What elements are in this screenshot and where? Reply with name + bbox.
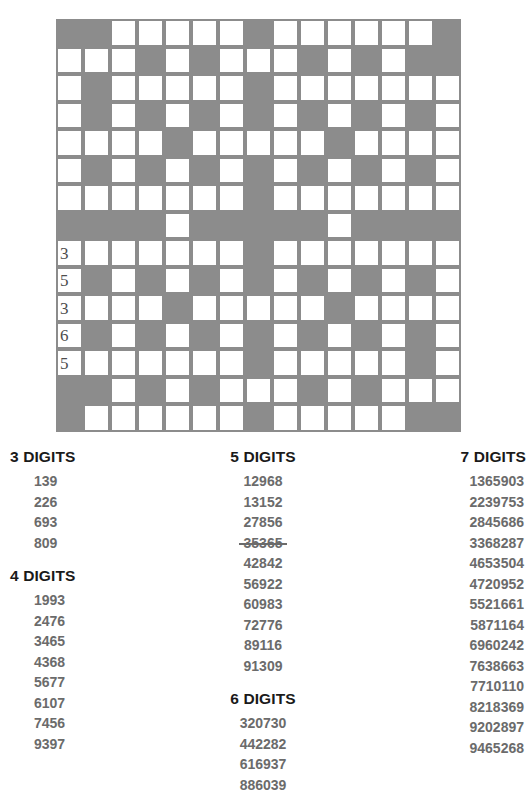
word-entry[interactable]: 72776 (244, 615, 283, 636)
grid-open-cell[interactable] (164, 47, 191, 75)
grid-open-cell[interactable] (353, 129, 380, 157)
grid-open-cell[interactable] (326, 239, 353, 267)
grid-open-cell[interactable] (272, 47, 299, 75)
word-entry[interactable]: 6960242 (469, 635, 524, 656)
grid-open-cell[interactable] (326, 322, 353, 350)
grid-open-cell[interactable]: 3 (56, 294, 83, 322)
grid-open-cell[interactable] (380, 102, 407, 130)
word-entry[interactable]: 2239753 (469, 492, 524, 513)
grid-open-cell[interactable] (434, 267, 461, 295)
grid-open-cell[interactable] (326, 267, 353, 295)
word-entry[interactable]: 7638663 (469, 656, 524, 677)
grid-open-cell[interactable] (164, 404, 191, 432)
grid-open-cell[interactable] (218, 157, 245, 185)
grid-open-cell[interactable] (191, 349, 218, 377)
grid-open-cell[interactable]: 5 (56, 267, 83, 295)
grid-open-cell[interactable] (83, 129, 110, 157)
grid-open-cell[interactable] (407, 129, 434, 157)
grid-open-cell[interactable] (272, 239, 299, 267)
grid-open-cell[interactable] (56, 129, 83, 157)
word-entry[interactable]: 226 (34, 492, 57, 513)
grid-open-cell[interactable] (164, 267, 191, 295)
word-entry[interactable]: 320730 (240, 713, 287, 734)
word-entry[interactable]: 809 (34, 533, 57, 554)
word-entry[interactable]: 4368 (34, 652, 65, 673)
grid-open-cell[interactable] (353, 74, 380, 102)
grid-open-cell[interactable] (164, 184, 191, 212)
grid-open-cell[interactable] (272, 19, 299, 47)
grid-open-cell[interactable] (218, 184, 245, 212)
word-entry[interactable]: 27856 (244, 512, 283, 533)
grid-open-cell[interactable] (164, 102, 191, 130)
grid-open-cell[interactable] (137, 404, 164, 432)
grid-open-cell[interactable] (407, 74, 434, 102)
grid-open-cell[interactable] (272, 377, 299, 405)
grid-open-cell[interactable] (407, 184, 434, 212)
grid-open-cell[interactable] (83, 184, 110, 212)
grid-open-cell[interactable] (164, 74, 191, 102)
grid-open-cell[interactable] (326, 404, 353, 432)
grid-open-cell[interactable] (326, 74, 353, 102)
grid-open-cell[interactable] (191, 184, 218, 212)
word-entry[interactable]: 442282 (240, 734, 287, 755)
grid-open-cell[interactable] (353, 349, 380, 377)
grid-open-cell[interactable] (245, 294, 272, 322)
grid-open-cell[interactable] (299, 349, 326, 377)
grid-open-cell[interactable] (218, 74, 245, 102)
grid-open-cell[interactable] (110, 74, 137, 102)
grid-open-cell[interactable] (191, 404, 218, 432)
grid-open-cell[interactable] (326, 377, 353, 405)
word-entry[interactable]: 56922 (244, 574, 283, 595)
puzzle-grid[interactable]: 35365 (56, 19, 461, 432)
grid-open-cell[interactable] (434, 74, 461, 102)
grid-open-cell[interactable] (407, 19, 434, 47)
word-entry[interactable]: 7456 (34, 713, 65, 734)
grid-open-cell[interactable] (56, 184, 83, 212)
word-entry[interactable]: 3465 (34, 631, 65, 652)
grid-open-cell[interactable] (191, 129, 218, 157)
grid-open-cell[interactable] (326, 184, 353, 212)
word-entry[interactable]: 1365903 (469, 471, 524, 492)
grid-open-cell[interactable] (137, 294, 164, 322)
grid-open-cell[interactable] (110, 47, 137, 75)
grid-open-cell[interactable] (272, 322, 299, 350)
word-entry[interactable]: 5871164 (470, 615, 524, 636)
grid-open-cell[interactable] (56, 102, 83, 130)
grid-open-cell[interactable]: 6 (56, 322, 83, 350)
grid-open-cell[interactable] (272, 294, 299, 322)
grid-open-cell[interactable] (83, 404, 110, 432)
grid-open-cell[interactable] (218, 129, 245, 157)
grid-open-cell[interactable] (110, 404, 137, 432)
grid-open-cell[interactable] (434, 294, 461, 322)
grid-open-cell[interactable] (83, 294, 110, 322)
grid-open-cell[interactable] (137, 239, 164, 267)
grid-open-cell[interactable] (83, 239, 110, 267)
grid-open-cell[interactable] (164, 377, 191, 405)
grid-open-cell[interactable] (191, 19, 218, 47)
grid-open-cell[interactable] (380, 239, 407, 267)
grid-open-cell[interactable] (164, 349, 191, 377)
grid-open-cell[interactable] (137, 74, 164, 102)
grid-open-cell[interactable] (110, 239, 137, 267)
grid-open-cell[interactable] (56, 47, 83, 75)
grid-open-cell[interactable] (299, 404, 326, 432)
grid-open-cell[interactable] (380, 349, 407, 377)
grid-open-cell[interactable] (191, 74, 218, 102)
grid-open-cell[interactable] (110, 294, 137, 322)
grid-open-cell[interactable] (218, 294, 245, 322)
word-entry[interactable]: 60983 (244, 594, 283, 615)
grid-open-cell[interactable] (434, 129, 461, 157)
grid-open-cell[interactable] (110, 349, 137, 377)
word-entry[interactable]: 42842 (244, 553, 283, 574)
grid-open-cell[interactable] (326, 212, 353, 240)
grid-open-cell[interactable] (218, 349, 245, 377)
grid-open-cell[interactable] (380, 322, 407, 350)
grid-open-cell[interactable] (272, 102, 299, 130)
grid-open-cell[interactable] (110, 19, 137, 47)
grid-open-cell[interactable] (56, 157, 83, 185)
grid-open-cell[interactable] (434, 184, 461, 212)
grid-open-cell[interactable] (299, 294, 326, 322)
word-entry[interactable]: 7710110 (470, 676, 524, 697)
grid-open-cell[interactable] (137, 129, 164, 157)
word-entry[interactable]: 91309 (244, 656, 283, 677)
